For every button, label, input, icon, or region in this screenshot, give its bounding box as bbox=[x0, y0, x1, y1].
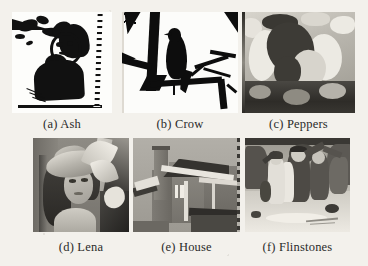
image-flinstones bbox=[245, 138, 350, 232]
caption-ash: (a) Ash bbox=[12, 117, 112, 132]
figure-panel-peppers bbox=[242, 12, 355, 113]
figure-panel-house bbox=[133, 138, 240, 232]
image-house bbox=[133, 138, 240, 232]
image-crow bbox=[122, 12, 238, 113]
figure-panel-lena bbox=[33, 138, 129, 232]
figure-panel-ash bbox=[12, 12, 112, 113]
figure-grid: (a) Ash (b) Crow bbox=[0, 0, 368, 266]
caption-crow: (b) Crow bbox=[122, 117, 238, 132]
image-ash bbox=[12, 12, 112, 113]
caption-ash-text: (a) Ash bbox=[43, 117, 81, 131]
figure-panel-crow bbox=[122, 12, 238, 113]
caption-flinstones: (f) Flinstones bbox=[241, 240, 354, 255]
image-lena bbox=[33, 138, 129, 232]
caption-lena: (d) Lena bbox=[33, 240, 129, 255]
figure-panel-flinstones bbox=[245, 138, 350, 232]
image-peppers bbox=[242, 12, 355, 113]
caption-flinstones-text: (f) Flinstones bbox=[263, 240, 333, 254]
caption-house: (e) House bbox=[133, 240, 240, 255]
caption-crow-text: (b) Crow bbox=[156, 117, 203, 131]
caption-house-text: (e) House bbox=[161, 240, 212, 254]
caption-peppers: (c) Peppers bbox=[242, 117, 355, 132]
caption-peppers-text: (c) Peppers bbox=[269, 117, 328, 131]
caption-lena-text: (d) Lena bbox=[59, 240, 103, 254]
